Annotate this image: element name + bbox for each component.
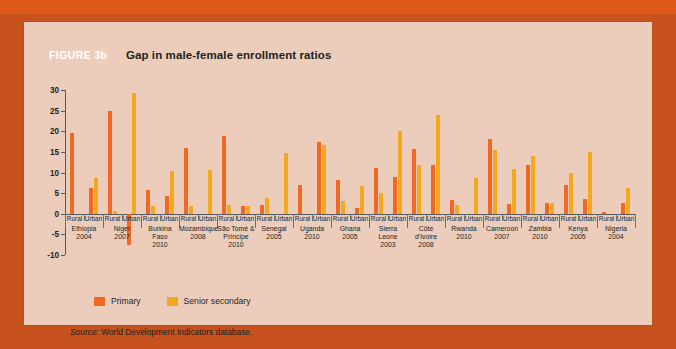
x-axis-group: RuralUrbanMozambique2008	[179, 214, 217, 260]
y-tick-label: 20	[50, 127, 59, 136]
year-label: 2010	[217, 241, 255, 248]
area-label-urban: Urban	[388, 215, 407, 222]
bar-senior-secondary	[208, 170, 213, 214]
bar-senior-secondary	[284, 153, 289, 214]
bar-primary	[184, 148, 189, 214]
country-label: Nigeria	[597, 225, 635, 233]
area-label-urban: Urban	[502, 215, 521, 222]
area-label-rural: Rural	[103, 215, 122, 222]
x-axis-end-separator	[635, 214, 636, 260]
bar-primary	[412, 149, 417, 213]
bar-senior-secondary	[626, 188, 631, 214]
x-axis-group: RuralUrbanZambia2010	[521, 214, 559, 260]
chart-legend: PrimarySenior secondary	[94, 296, 277, 306]
country-label: Cameroon	[483, 225, 521, 233]
area-label-urban: Urban	[464, 215, 483, 222]
bar-primary	[165, 196, 170, 213]
area-label-urban: Urban	[84, 215, 103, 222]
bar-primary	[89, 188, 94, 214]
bar-senior-secondary	[265, 198, 270, 213]
bar-senior-secondary	[550, 203, 555, 214]
bar-senior-secondary	[531, 156, 536, 214]
x-axis-labels: RuralUrbanEthiopia2004RuralUrbanNiger200…	[65, 214, 635, 260]
bar-primary	[108, 111, 113, 214]
country-label: São Tomé & Príncipe	[217, 225, 255, 240]
bar-senior-secondary	[417, 165, 422, 213]
bar-senior-secondary	[189, 206, 194, 214]
year-label: 2008	[179, 233, 217, 240]
year-label: 2005	[559, 233, 597, 240]
legend-item[interactable]: Senior secondary	[167, 296, 251, 306]
bar-senior-secondary	[569, 173, 574, 214]
year-label: 2010	[445, 233, 483, 240]
year-label: 2004	[65, 233, 103, 240]
x-axis-group: RuralUrbanUganda2010	[293, 214, 331, 260]
area-label-urban: Urban	[236, 215, 255, 222]
area-label-rural: Rural	[331, 215, 350, 222]
y-tick-mark	[61, 90, 65, 91]
area-label-rural: Rural	[141, 215, 160, 222]
bar-senior-secondary	[474, 178, 479, 214]
area-label-urban: Urban	[160, 215, 179, 222]
bar-primary	[545, 203, 550, 214]
x-axis-group: RuralUrbanNigeria2004	[597, 214, 635, 260]
country-label: Senegal	[255, 225, 293, 233]
area-label-urban: Urban	[540, 215, 559, 222]
x-axis-group: RuralUrbanGhana2005	[331, 214, 369, 260]
area-label-rural: Rural	[179, 215, 198, 222]
year-label: 2004	[597, 233, 635, 240]
area-label-urban: Urban	[274, 215, 293, 222]
bar-primary	[431, 165, 436, 214]
bar-senior-secondary	[170, 171, 175, 213]
country-label: Kenya	[559, 225, 597, 233]
bar-senior-secondary	[379, 193, 384, 214]
country-label: Uganda	[293, 225, 331, 233]
country-label: Sierra Leone	[369, 225, 407, 240]
bar-primary	[146, 190, 151, 214]
year-label: 2010	[293, 233, 331, 240]
area-label-rural: Rural	[65, 215, 84, 222]
area-label-rural: Rural	[255, 215, 274, 222]
x-axis-group: RuralUrbanRwanda2010	[445, 214, 483, 260]
year-label: 2005	[255, 233, 293, 240]
bar-senior-secondary	[151, 206, 156, 213]
bar-senior-secondary	[398, 131, 403, 214]
x-axis-group: RuralUrbanSão Tomé & Príncipe2010	[217, 214, 255, 260]
legend-item[interactable]: Primary	[94, 296, 141, 306]
bar-senior-secondary	[94, 178, 99, 213]
area-label-rural: Rural	[369, 215, 388, 222]
bar-primary	[526, 165, 531, 214]
figure-card: FIGURE 3b Gap in male-female enrollment …	[24, 22, 652, 325]
x-axis-group: RuralUrbanNiger2007	[103, 214, 141, 260]
area-label-rural: Rural	[597, 215, 616, 222]
page-background: FIGURE 3b Gap in male-female enrollment …	[0, 0, 676, 349]
top-accent-band	[0, 0, 676, 14]
bar-senior-secondary	[341, 201, 346, 214]
y-tick-label: -5	[52, 230, 59, 239]
bar-primary	[241, 206, 246, 213]
bar-senior-secondary	[322, 145, 327, 213]
country-label: Zambia	[521, 225, 559, 233]
bar-primary	[564, 185, 569, 214]
bar-primary	[393, 177, 398, 214]
y-tick-mark	[61, 193, 65, 194]
legend-label: Senior secondary	[184, 296, 251, 306]
bar-primary	[583, 199, 588, 214]
source-note: Source: World Development Indicators dat…	[70, 327, 252, 337]
x-axis-group: RuralUrbanEthiopia2004	[65, 214, 103, 260]
bar-senior-secondary	[436, 115, 441, 214]
year-label: 2010	[141, 241, 179, 248]
y-tick-label: 25	[50, 106, 59, 115]
bar-primary	[374, 168, 379, 213]
area-label-urban: Urban	[122, 215, 141, 222]
y-tick-label: 0	[54, 209, 59, 218]
country-label: Rwanda	[445, 225, 483, 233]
bar-senior-secondary	[132, 93, 137, 213]
source-label: Source:	[70, 327, 99, 337]
area-label-rural: Rural	[445, 215, 464, 222]
area-label-urban: Urban	[426, 215, 445, 222]
area-label-rural: Rural	[407, 215, 426, 222]
bar-senior-secondary	[493, 150, 498, 214]
group-separator	[635, 214, 636, 228]
year-label: 2010	[521, 233, 559, 240]
